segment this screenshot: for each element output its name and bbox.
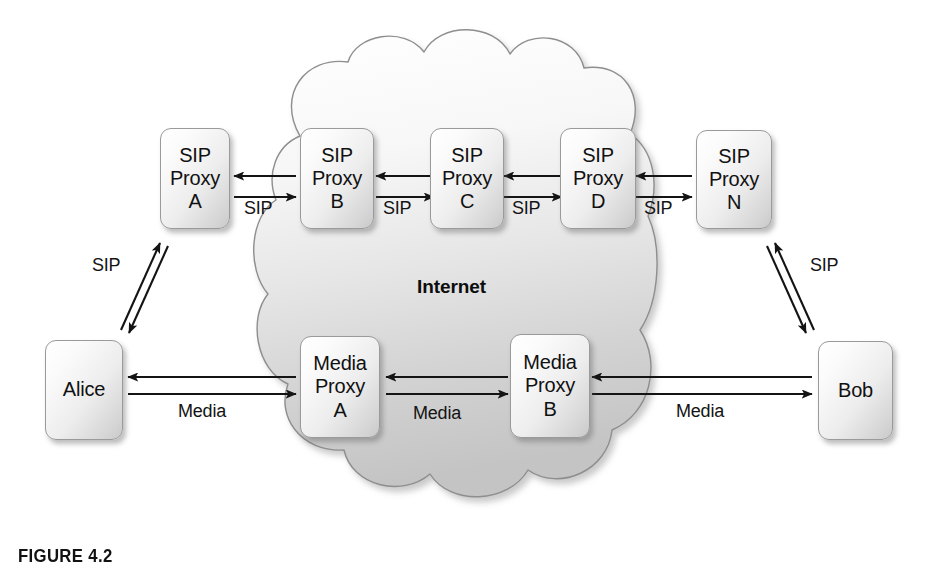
node-label-line: Media (313, 352, 366, 375)
node-label-line: Proxy (170, 167, 220, 190)
node-bob[interactable]: Bob (818, 341, 893, 440)
node-sip-proxy-c[interactable]: SIP Proxy C (430, 128, 504, 229)
edge-label-media-ab: Media (413, 403, 461, 424)
node-label-line: Proxy (315, 375, 365, 398)
figure-caption: FIGURE 4.2 (18, 545, 113, 567)
edge-label-media-alice: Media (178, 401, 226, 422)
edge-label-sip-cd: SIP (512, 198, 540, 219)
node-label-line: Proxy (525, 374, 575, 397)
node-label-line: N (727, 191, 741, 214)
node-media-proxy-b[interactable]: Media Proxy B (510, 334, 590, 438)
node-label-line: SIP (582, 144, 614, 167)
network-diagram-canvas (0, 0, 937, 535)
edge-label-bob-sip: SIP (810, 255, 838, 276)
node-sip-proxy-b[interactable]: SIP Proxy B (300, 128, 374, 229)
node-label-line: SIP (179, 144, 211, 167)
node-label-line: Proxy (442, 167, 492, 190)
node-label-line: Media (523, 351, 576, 374)
node-label-line: SIP (718, 145, 750, 168)
edge-label-sip-bc: SIP (383, 198, 411, 219)
node-label-line: A (333, 399, 346, 422)
edge-label-sip-ab: SIP (244, 198, 272, 219)
node-label-line: C (460, 190, 474, 213)
node-label-line: Proxy (573, 167, 623, 190)
edge-label-media-bob: Media (676, 401, 724, 422)
node-label-line: Alice (63, 378, 105, 401)
node-label-line: D (591, 190, 605, 213)
figure-container: Internet SIP Proxy A SIP Proxy B SIP Pro… (0, 0, 937, 582)
node-label-line: SIP (321, 144, 353, 167)
internet-cloud-label: Internet (417, 276, 486, 298)
node-label-line: B (543, 398, 556, 421)
node-label-line: A (188, 190, 201, 213)
node-alice[interactable]: Alice (45, 340, 123, 440)
node-label-line: B (330, 190, 343, 213)
node-sip-proxy-n[interactable]: SIP Proxy N (696, 130, 772, 229)
edge-label-sip-dn: SIP (644, 198, 672, 219)
node-sip-proxy-d[interactable]: SIP Proxy D (560, 128, 636, 229)
node-sip-proxy-a[interactable]: SIP Proxy A (160, 128, 230, 229)
edge-label-alice-sip: SIP (92, 255, 120, 276)
node-label-line: Proxy (709, 168, 759, 191)
node-label-line: Bob (838, 379, 873, 402)
node-media-proxy-a[interactable]: Media Proxy A (300, 336, 380, 438)
node-label-line: Proxy (312, 167, 362, 190)
node-label-line: SIP (451, 144, 483, 167)
